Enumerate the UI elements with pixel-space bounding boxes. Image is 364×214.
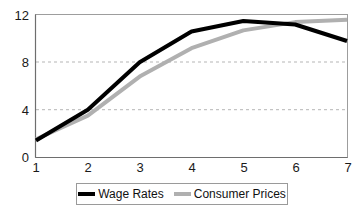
plot-frame xyxy=(36,15,348,158)
x-tick-label-3: 3 xyxy=(130,161,150,174)
chart-legend: Wage Rates Consumer Prices xyxy=(76,183,288,205)
legend-item-consumer-prices: Consumer Prices xyxy=(174,188,286,200)
x-tick-label-5: 5 xyxy=(234,161,254,174)
legend-label-consumer-prices: Consumer Prices xyxy=(194,188,286,200)
legend-swatch-wage-rates xyxy=(78,192,95,196)
legend-label-wage-rates: Wage Rates xyxy=(98,188,164,200)
y-tick-label-12: 12 xyxy=(3,9,29,22)
x-tick-label-1: 1 xyxy=(26,161,46,174)
legend-item-wage-rates: Wage Rates xyxy=(78,188,164,200)
y-tick-label-8: 8 xyxy=(3,56,29,69)
chart-plot-area xyxy=(0,0,364,214)
x-tick-label-4: 4 xyxy=(182,161,202,174)
x-tick-label-7: 7 xyxy=(338,161,358,174)
line-chart: 12 8 4 0 1 2 3 4 5 6 7 Wage Rates Consum… xyxy=(0,0,364,214)
x-tick-label-2: 2 xyxy=(78,161,98,174)
legend-swatch-consumer-prices xyxy=(174,192,191,196)
y-tick-label-4: 4 xyxy=(3,104,29,117)
x-tick-label-6: 6 xyxy=(286,161,306,174)
